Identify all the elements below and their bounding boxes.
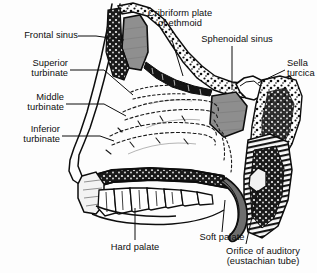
label-hard-palate: Hard palate: [101, 242, 169, 252]
label-cribriform-plate-of-ethmoid: Cribriform plate of ethmoid: [138, 8, 222, 29]
label-soft-palate: Soft palate: [190, 232, 254, 242]
label-superior-turbinate: Superior turbinate: [4, 58, 68, 79]
nasal-mucosa-shading: [128, 100, 200, 154]
label-orifice-of-auditory-tube: Orifice of auditory (eustachian tube): [211, 246, 315, 267]
anatomical-figure: Frontal sinus Superior turbinate Middle …: [0, 0, 317, 273]
sphenoidal-sinus: [206, 92, 252, 137]
hard-palate: [90, 168, 228, 188]
label-sphenoidal-sinus: Sphenoidal sinus: [196, 34, 278, 44]
label-sella-turcica: Sella turcica: [287, 58, 317, 79]
label-middle-turbinate: Middle turbinate: [4, 92, 64, 113]
label-inferior-turbinate: Inferior turbinate: [2, 124, 60, 145]
label-frontal-sinus: Frontal sinus: [4, 30, 78, 40]
